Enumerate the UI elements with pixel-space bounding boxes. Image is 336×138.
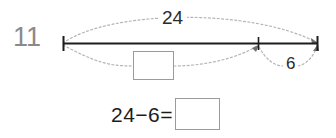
total-arc-dotted — [63, 17, 316, 43]
equation-expression: 24−6= — [111, 104, 173, 125]
worksheet-problem: 11 24 6 24−6= — [0, 0, 336, 138]
subtracted-arc-label: 6 — [283, 55, 298, 72]
part-arc-right-dotted — [174, 46, 257, 66]
total-arc-label: 24 — [158, 8, 187, 27]
subtracted-arc-dotted-right — [298, 46, 317, 66]
part-arc-left-dotted — [63, 45, 133, 66]
equation-answer-input-box[interactable] — [175, 98, 220, 130]
missing-part-input-box[interactable] — [133, 51, 174, 80]
equation-row: 24−6= — [111, 98, 220, 130]
subtracted-arc-dotted — [259, 47, 283, 66]
